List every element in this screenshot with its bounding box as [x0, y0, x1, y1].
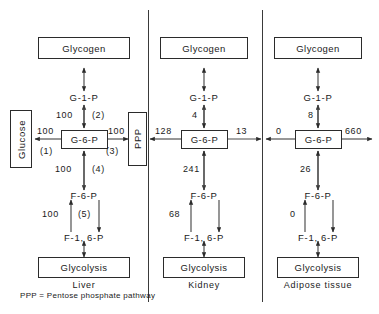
liver-glycogen-label: Glycogen	[62, 43, 105, 54]
liver-g6p-label: G-6-P	[71, 134, 98, 145]
liver-f16p-label: F-1, 6-P	[53, 232, 115, 243]
adipose-flux-left: 0	[276, 126, 282, 136]
kidney-g6p-box: G-6-P	[181, 130, 228, 149]
kidney-f6p-label: F-6-P	[179, 190, 229, 201]
liver-ppp-label: PPP	[132, 129, 143, 150]
liver-flux-f16p: 100	[42, 209, 59, 219]
liver-flux-g1p: 100	[56, 110, 73, 120]
metabolic-flux-diagram: Glycogen G-1-P Glucose G-6-P PPP F-6-P F…	[0, 0, 379, 314]
kidney-glycogen-box: Glycogen	[160, 37, 248, 59]
adipose-flux-right: 660	[345, 126, 362, 136]
kidney-g6p-label: G-6-P	[191, 134, 218, 145]
panel-divider-liver-kidney	[148, 10, 149, 302]
adipose-g6p-label: G-6-P	[305, 134, 332, 145]
kidney-glycolysis-box: Glycolysis	[163, 257, 245, 278]
liver-glycolysis-box: Glycolysis	[38, 257, 130, 278]
liver-reaction-2: (2)	[92, 110, 105, 120]
kidney-flux-f16p: 68	[169, 209, 180, 219]
liver-reaction-3: (3)	[106, 146, 119, 156]
adipose-flux-f16p: 0	[290, 209, 296, 219]
liver-glycolysis-label: Glycolysis	[61, 262, 108, 273]
liver-reaction-1: (1)	[40, 146, 53, 156]
adipose-caption: Adipose tissue	[279, 280, 357, 290]
footnote-ppp-definition: PPP = Pentose phosphate pathway	[20, 291, 155, 300]
kidney-caption: Kidney	[174, 280, 234, 290]
adipose-glycolysis-label: Glycolysis	[295, 262, 342, 273]
liver-flux-glucose: 100	[37, 126, 54, 136]
adipose-glycolysis-box: Glycolysis	[277, 257, 359, 278]
kidney-glycogen-label: Glycogen	[182, 43, 225, 54]
liver-ppp-box: PPP	[128, 112, 147, 166]
panel-divider-kidney-adipose	[262, 10, 263, 302]
liver-glucose-box: Glucose	[10, 110, 32, 168]
kidney-flux-f6p: 241	[183, 164, 200, 174]
adipose-g6p-box: G-6-P	[295, 130, 342, 149]
liver-flux-ppp: 100	[108, 126, 125, 136]
adipose-flux-f6p: 26	[300, 164, 311, 174]
kidney-flux-left: 128	[155, 126, 172, 136]
kidney-flux-right: 13	[236, 126, 247, 136]
liver-reaction-5: (5)	[78, 209, 91, 219]
adipose-g1p-label: G-1-P	[293, 92, 343, 103]
liver-glycogen-box: Glycogen	[38, 37, 130, 59]
adipose-flux-g1p: 8	[308, 110, 314, 120]
kidney-flux-g1p: 4	[192, 110, 198, 120]
liver-flux-f6p: 100	[55, 164, 72, 174]
liver-g6p-box: G-6-P	[61, 130, 108, 149]
liver-f6p-label: F-6-P	[59, 190, 109, 201]
kidney-g1p-label: G-1-P	[179, 92, 229, 103]
kidney-glycolysis-label: Glycolysis	[181, 262, 228, 273]
liver-glucose-label: Glucose	[16, 119, 27, 158]
liver-g1p-label: G-1-P	[59, 92, 109, 103]
adipose-glycogen-box: Glycogen	[274, 37, 362, 59]
adipose-glycogen-label: Glycogen	[296, 43, 339, 54]
adipose-f16p-label: F-1, 6-P	[287, 232, 349, 243]
liver-caption: Liver	[54, 280, 114, 290]
adipose-f6p-label: F-6-P	[293, 190, 343, 201]
kidney-f16p-label: F-1, 6-P	[173, 232, 235, 243]
liver-reaction-4: (4)	[92, 164, 105, 174]
